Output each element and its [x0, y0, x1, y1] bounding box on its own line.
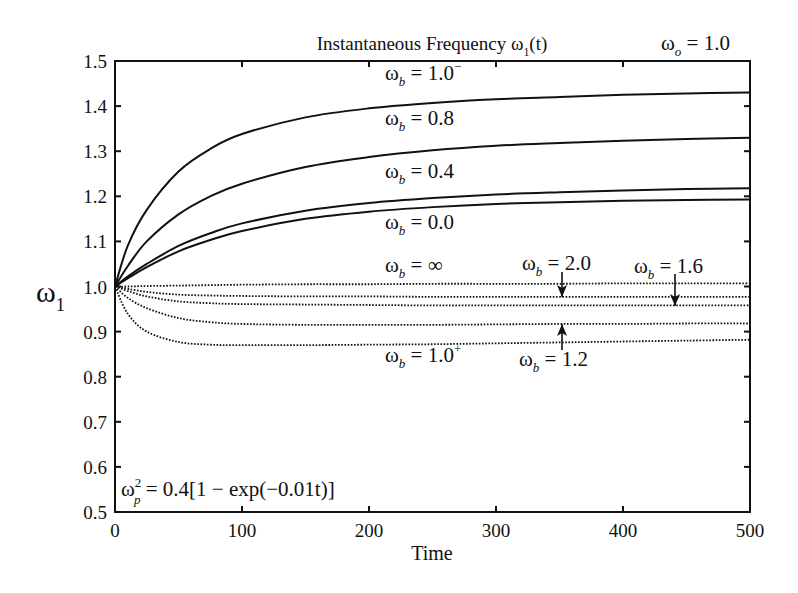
series-line-8: [115, 287, 750, 346]
curve-label-1: ωb = 0.8: [385, 106, 454, 134]
y-tick-label: 1.4: [83, 96, 107, 117]
chart-container: 01002003004005000.50.60.70.80.91.01.11.2…: [0, 0, 798, 593]
x-tick-label: 300: [482, 520, 511, 541]
curve-label-0: ωb = 1.0−: [385, 59, 461, 90]
chart-title: Instantaneous Frequency ω1(t): [317, 33, 548, 59]
y-tick-label: 1.3: [83, 141, 107, 162]
y-tick-label: 1.5: [83, 51, 107, 72]
curve-label-4: ωb = ∞: [385, 253, 443, 281]
curve-label-5: ωb = 2.0: [522, 251, 591, 279]
series-line-5: [115, 287, 750, 297]
y-tick-label: 1.1: [83, 231, 107, 252]
curve-label-6: ωb = 1.6: [634, 254, 703, 282]
y-tick-label: 0.9: [83, 322, 107, 343]
arrow-icon-0: [557, 272, 567, 297]
x-tick-label: 200: [355, 520, 384, 541]
line-chart: 01002003004005000.50.60.70.80.91.01.11.2…: [0, 0, 798, 593]
formula-annotation: ω2p = 0.4[1 − exp(−0.01t)]: [121, 475, 335, 508]
curve-label-2: ωb = 0.4: [385, 159, 454, 187]
y-tick-label: 0.5: [83, 502, 107, 523]
y-tick-label: 0.7: [83, 412, 107, 433]
arrow-icon-1: [670, 274, 680, 306]
curve-label-8: ωb = 1.2: [519, 347, 588, 375]
curve-label-7: ωb = 1.0+: [385, 341, 461, 372]
y-tick-label: 1.2: [83, 186, 107, 207]
omega-o-label: ωo = 1.0: [661, 31, 730, 59]
x-tick-label: 500: [736, 520, 765, 541]
y-tick-label: 0.6: [83, 457, 107, 478]
y-tick-label: 0.8: [83, 367, 107, 388]
x-tick-label: 0: [110, 520, 120, 541]
y-tick-label: 1.0: [83, 277, 107, 298]
x-axis-label: Time: [411, 542, 453, 564]
x-tick-label: 400: [609, 520, 638, 541]
curve-label-3: ωb = 0.0: [385, 210, 454, 238]
series-line-4: [115, 283, 750, 286]
x-tick-label: 100: [228, 520, 257, 541]
y-axis-label: ω1: [36, 275, 65, 315]
